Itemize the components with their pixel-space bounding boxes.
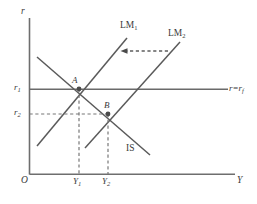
lm2-curve (85, 42, 180, 148)
world-interest-rate-sub: f (242, 87, 244, 94)
lm1-label: LM1 (120, 21, 138, 31)
is-curve (37, 57, 150, 155)
point-b-marker (106, 112, 111, 117)
y-tick-r1: r1 (14, 83, 21, 92)
world-interest-rate-text: r=r (229, 83, 242, 93)
x-axis-label: Y (237, 176, 242, 186)
lm1-label-text: LM (120, 20, 134, 30)
diagram-canvas (0, 0, 257, 204)
x-tick-y2: Y2 (102, 177, 110, 186)
y-tick-r2-text: r (14, 107, 18, 117)
point-b-label: B (104, 101, 110, 110)
world-interest-rate-label: r=rf (229, 84, 244, 93)
lm2-label-sub: 2 (182, 32, 185, 39)
lm2-label: LM2 (168, 29, 186, 39)
y-tick-r2-sub: 2 (18, 111, 21, 118)
x-tick-y1: Y1 (73, 177, 81, 186)
y-tick-r1-sub: 1 (18, 86, 21, 93)
y-axis-label: r (21, 7, 25, 17)
origin-label: O (21, 176, 28, 186)
point-a-marker (77, 87, 82, 92)
lm2-label-text: LM (168, 28, 182, 38)
y-tick-r1-text: r (14, 82, 18, 92)
shift-arrow-head-icon (121, 48, 128, 54)
x-tick-y1-sub: 1 (78, 180, 81, 187)
x-tick-y2-sub: 2 (107, 180, 110, 187)
is-lm-diagram: r Y O r1 r2 Y1 Y2 LM1 LM2 IS r=rf A B (0, 0, 257, 204)
point-a-label: A (72, 76, 78, 85)
lm1-label-sub: 1 (134, 24, 137, 31)
is-label: IS (126, 144, 134, 154)
y-tick-r2: r2 (14, 108, 21, 117)
lm1-curve (37, 38, 127, 146)
